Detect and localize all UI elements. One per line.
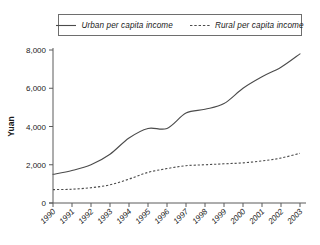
chart-figure: Urban per capita income Rural per capita…: [0, 0, 320, 245]
series-line-urban: [53, 54, 300, 174]
y-tick-label: 4,000: [26, 123, 47, 132]
x-tick-label: 1995: [133, 207, 152, 226]
series-lines: [53, 54, 300, 190]
x-tick-label: 2001: [247, 207, 267, 227]
x-axis: 1990199119921993199419951996199719981999…: [38, 203, 306, 227]
x-tick-label: 1993: [95, 207, 114, 226]
x-tick-label: 1991: [57, 207, 76, 226]
x-tick-label: 1996: [152, 207, 171, 226]
series-line-rural: [53, 153, 300, 189]
y-axis: 02,0004,0006,0008,000: [26, 46, 53, 208]
x-tick-label: 1994: [114, 207, 133, 226]
x-tick-label: 1990: [38, 207, 57, 226]
y-tick-label: 0: [42, 199, 47, 208]
plot-svg: 02,0004,0006,0008,000 199019911992199319…: [0, 0, 320, 245]
x-tick-label: 2002: [266, 207, 286, 227]
x-tick-label: 1998: [190, 207, 209, 226]
x-tick-label: 2000: [228, 207, 248, 227]
x-tick-label: 1997: [171, 207, 190, 226]
y-tick-label: 8,000: [26, 46, 47, 55]
x-tick-label: 2003: [285, 207, 305, 227]
x-tick-label: 1992: [76, 207, 95, 226]
plot-area: 02,0004,0006,0008,000 199019911992199319…: [0, 0, 320, 245]
x-tick-label: 1999: [209, 207, 228, 226]
y-axis-title: Yuan: [6, 116, 16, 136]
y-tick-label: 2,000: [26, 161, 47, 170]
y-tick-label: 6,000: [26, 84, 47, 93]
